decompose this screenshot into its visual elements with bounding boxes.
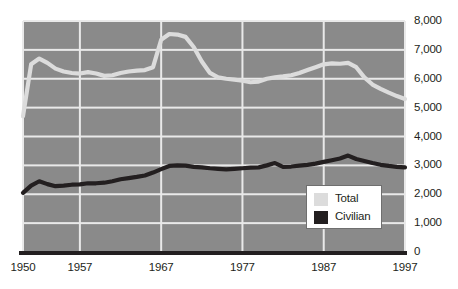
chart-plot-area xyxy=(0,0,458,289)
x-axis-tick-label: 1950 xyxy=(0,262,47,274)
gridline-vertical xyxy=(22,21,24,252)
gridline-vertical xyxy=(79,21,81,252)
y-axis-tick-label: 6,000 xyxy=(414,73,442,85)
y-axis-tick-label: 7,000 xyxy=(414,44,442,56)
x-axis-tick-label: 1957 xyxy=(56,262,104,274)
x-axis-tick-label: 1997 xyxy=(381,262,429,274)
x-axis-tick-label: 1977 xyxy=(218,262,266,274)
line-chart: 01,0002,0003,0004,0005,0006,0007,0008,00… xyxy=(0,0,458,289)
legend-item-civilian: Civilian xyxy=(314,209,370,225)
y-axis-tick-label: 1,000 xyxy=(414,217,442,229)
y-axis-tick-label: 5,000 xyxy=(414,102,442,114)
legend-item-total: Total xyxy=(314,191,358,207)
x-axis-tick-label: 1987 xyxy=(300,262,348,274)
legend-swatch-total xyxy=(314,193,328,206)
gridline-vertical xyxy=(404,21,406,252)
y-axis-tick-label: 0 xyxy=(414,246,420,258)
legend-label-civilian: Civilian xyxy=(335,211,370,223)
gridline-vertical xyxy=(160,21,162,252)
chart-legend: Total Civilian xyxy=(306,185,382,229)
x-axis-line xyxy=(19,251,407,255)
y-axis-tick-label: 2,000 xyxy=(414,188,442,200)
legend-label-total: Total xyxy=(335,193,358,205)
y-axis-tick-label: 8,000 xyxy=(414,15,442,27)
legend-swatch-civilian xyxy=(314,211,328,224)
y-axis-tick-label: 3,000 xyxy=(414,159,442,171)
x-axis-tick-label: 1967 xyxy=(137,262,185,274)
gridline-vertical xyxy=(241,21,243,252)
y-axis-tick-label: 4,000 xyxy=(414,131,442,143)
